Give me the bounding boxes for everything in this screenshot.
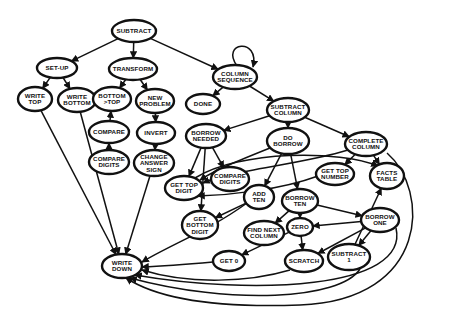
edge-set-up-to-write-bottom xyxy=(63,78,70,89)
node-change-answer-sign: CHANGEANSWERSIGN xyxy=(134,150,174,176)
node-label: SET-UP xyxy=(46,64,69,71)
node-transform: TRANSFORM xyxy=(109,58,157,80)
edge-subtract-to-set-up xyxy=(71,39,118,62)
node-set-up: SET-UP xyxy=(37,58,77,78)
edge-transform-to-bottom-gt-top xyxy=(120,80,126,89)
node-label: DIGIT xyxy=(192,228,209,235)
node-write-bottom: WRITEBOTTOM xyxy=(58,88,96,112)
node-label: DIGIT xyxy=(176,187,193,194)
node-label: PROBLEM xyxy=(139,100,171,107)
node-label: TABLE xyxy=(377,175,398,182)
node-add-ten: ADDTEN xyxy=(244,185,274,209)
node-label: BORROW xyxy=(273,140,303,147)
node-label: BOTTOM xyxy=(63,99,90,106)
node-label: SUBTRACT xyxy=(117,27,152,34)
node-done: DONE xyxy=(186,94,220,114)
edge-borrow-needed-to-compare-digits-2 xyxy=(212,147,223,167)
node-get-0: GET 0 xyxy=(213,251,245,271)
node-label: GET 0 xyxy=(220,257,239,264)
node-find-next-column: FIND NEXTCOLUMN xyxy=(244,221,284,245)
edge-subtract-column-to-complete-column xyxy=(305,117,350,136)
node-label: DIGITS xyxy=(219,178,240,185)
edge-borrow-needed-to-get-top-digit xyxy=(189,148,201,177)
node-borrow-one: BORROWONE xyxy=(361,208,399,232)
node-label: INVERT xyxy=(144,129,167,136)
node-bottom-gt-top: BOTTOM>TOP xyxy=(93,87,131,111)
node-complete-column: COMPLETECOLUMN xyxy=(345,132,387,156)
node-write-down: WRITEDOWN xyxy=(102,254,142,278)
node-label: COLUMN xyxy=(352,143,380,150)
edge-transform-to-new-problem xyxy=(140,80,147,91)
node-write-top: WRITETOP xyxy=(18,87,52,111)
edge-column-sequence-to-subtract-column xyxy=(250,86,274,101)
edge-set-up-to-write-top xyxy=(43,77,51,88)
edge-borrow-ten-to-find-next-column xyxy=(275,211,289,224)
node-label: SEQUENCE xyxy=(217,76,253,83)
node-label: 1 xyxy=(347,256,351,263)
edge-get-0-to-write-down xyxy=(142,262,213,267)
edge-borrow-one-to-zero xyxy=(313,222,361,226)
edge-scratch-to-write-down xyxy=(142,270,290,280)
node-label: COLUMN xyxy=(274,109,302,116)
edge-subtract-to-column-sequence xyxy=(150,38,218,69)
node-compare-digits-2: COMPAREDIGITS xyxy=(211,167,249,191)
edge-complete-column-to-facts-table xyxy=(373,155,379,164)
node-borrow-needed: BORROWNEEDED xyxy=(186,124,226,148)
node-subtract-column: SUBTRACTCOLUMN xyxy=(267,98,309,122)
node-label: TRANSFORM xyxy=(113,65,153,72)
node-do-borrow: DOBORROW xyxy=(267,128,309,154)
node-column-sequence: COLUMNSEQUENCE xyxy=(213,65,257,89)
node-label: TEN xyxy=(253,196,266,203)
node-label: DOWN xyxy=(112,265,132,272)
edge-add-ten-to-get-bottom-digit xyxy=(215,203,246,218)
node-label: ONE xyxy=(373,219,387,226)
node-label: COMPARE xyxy=(93,128,125,135)
node-get-bottom-digit: GETBOTTOMDIGIT xyxy=(182,211,218,239)
node-label: NEEDED xyxy=(193,135,220,142)
node-label: SCRATCH xyxy=(289,257,320,264)
node-label: TOP xyxy=(29,98,42,105)
node-invert: INVERT xyxy=(137,122,175,144)
node-subtract-1: SUBTRACT1 xyxy=(328,244,370,270)
edge-change-answer-sign-to-write-down xyxy=(126,176,150,255)
node-get-top-digit: GET TOPDIGIT xyxy=(165,176,203,200)
node-new-problem: NEWPROBLEM xyxy=(136,89,174,113)
subtraction-procedure-network: SUBTRACTSET-UPTRANSFORMCOLUMNSEQUENCEWRI… xyxy=(0,0,450,321)
node-subtract: SUBTRACT xyxy=(112,20,156,42)
edge-zero-to-scratch xyxy=(301,236,303,250)
node-zero: ZERO xyxy=(287,218,313,236)
edge-subtract-column-to-borrow-needed xyxy=(224,116,270,131)
node-label: ZERO xyxy=(291,223,309,230)
edge-column-sequence-to-done xyxy=(213,87,223,96)
node-label: SIGN xyxy=(146,166,162,173)
node-label: DIGITS xyxy=(98,161,119,168)
node-borrow-ten: BORROWTEN xyxy=(282,189,318,213)
edge-borrow-ten-to-borrow-one xyxy=(317,205,362,216)
node-label: >TOP xyxy=(104,98,121,105)
node-get-top-number: GET TOPNUMBER xyxy=(316,163,354,185)
node-label: COLUMN xyxy=(250,232,278,239)
edge-subtract-1-to-write-down xyxy=(130,269,360,296)
node-compare-digits-1: COMPAREDIGITS xyxy=(89,150,129,174)
node-label: DONE xyxy=(194,100,212,107)
node-label: NUMBER xyxy=(321,173,349,180)
edge-do-borrow-to-add-ten xyxy=(265,153,282,186)
node-scratch: SCRATCH xyxy=(285,250,323,272)
node-label: TEN xyxy=(294,200,307,207)
node-compare: COMPARE xyxy=(89,121,129,143)
edge-compare-to-bottom-gt-top xyxy=(110,111,111,121)
node-facts-table: FACTSTABLE xyxy=(370,163,404,189)
